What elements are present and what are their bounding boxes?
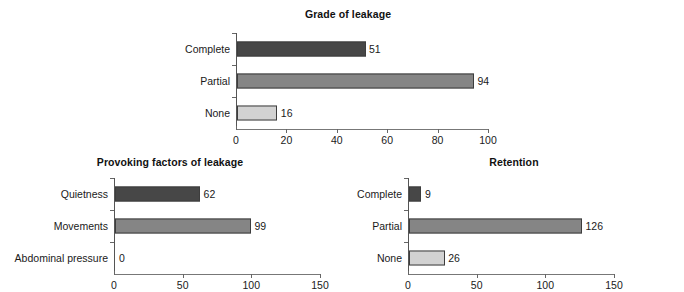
x-tick <box>614 274 615 278</box>
x-axis-line <box>114 274 320 275</box>
x-tick <box>488 129 489 133</box>
bar-value-label: 94 <box>477 75 489 87</box>
chart-title: Retention <box>364 156 664 168</box>
x-tick <box>251 274 252 278</box>
x-tick-label: 150 <box>605 279 623 291</box>
plot-area: 0 50 100 150 Quietness Movements Abdomin… <box>114 178 320 274</box>
y-tick <box>404 178 408 179</box>
x-tick <box>387 129 388 133</box>
plot-area: 0 50 100 150 Complete Partial None 9 126… <box>408 178 614 274</box>
bar <box>409 251 445 266</box>
x-tick <box>320 274 321 278</box>
x-tick-label: 100 <box>537 279 555 291</box>
bar <box>115 187 200 202</box>
bar-value-label: 99 <box>254 220 266 232</box>
y-tick <box>232 97 236 98</box>
bar-value-label: 9 <box>425 188 431 200</box>
chart-title: Provoking factors of leakage <box>10 156 330 168</box>
x-tick-label: 0 <box>233 134 239 146</box>
y-tick <box>404 210 408 211</box>
y-tick <box>404 242 408 243</box>
x-tick-label: 80 <box>432 134 444 146</box>
y-tick <box>232 33 236 34</box>
category-label: Movements <box>54 220 108 232</box>
plot-area: 0 20 40 60 80 100 Complete Partial None … <box>236 33 488 129</box>
x-tick-label: 100 <box>479 134 497 146</box>
x-tick <box>236 126 237 130</box>
x-tick-label: 0 <box>405 279 411 291</box>
x-tick <box>438 129 439 133</box>
bar-value-label: 26 <box>448 252 460 264</box>
category-label: None <box>377 252 402 264</box>
bar-value-label: 0 <box>119 252 125 264</box>
bar-value-label: 51 <box>369 43 381 55</box>
x-tick <box>408 271 409 275</box>
x-tick-label: 60 <box>381 134 393 146</box>
category-label: Partial <box>200 75 230 87</box>
category-label: Quietness <box>61 188 108 200</box>
chart-panel-provoking-factors: Provoking factors of leakage 0 50 100 15… <box>0 156 340 292</box>
bar-value-label: 16 <box>281 107 293 119</box>
x-tick <box>477 274 478 278</box>
category-label: None <box>205 107 230 119</box>
x-tick-label: 50 <box>177 279 189 291</box>
category-label: Complete <box>185 43 230 55</box>
bar <box>409 187 421 202</box>
x-tick-label: 0 <box>111 279 117 291</box>
y-tick <box>110 178 114 179</box>
x-tick-label: 100 <box>243 279 261 291</box>
x-tick-label: 20 <box>281 134 293 146</box>
x-tick <box>286 129 287 133</box>
x-tick <box>545 274 546 278</box>
bar-value-label: 126 <box>586 220 604 232</box>
y-tick <box>110 242 114 243</box>
bar <box>237 74 474 89</box>
x-tick <box>337 129 338 133</box>
chart-panel-grade-of-leakage: Grade of leakage 0 20 40 60 80 100 Compl… <box>168 8 528 143</box>
x-tick-label: 150 <box>311 279 329 291</box>
bar <box>237 42 366 57</box>
bar <box>409 219 582 234</box>
category-label: Complete <box>357 188 402 200</box>
category-label: Abdominal pressure <box>15 252 108 264</box>
x-tick <box>183 274 184 278</box>
bar <box>237 106 277 121</box>
x-axis-line <box>408 274 614 275</box>
x-tick-label: 40 <box>331 134 343 146</box>
x-tick <box>114 271 115 275</box>
bar <box>115 219 251 234</box>
category-label: Partial <box>372 220 402 232</box>
y-tick <box>232 65 236 66</box>
x-axis-line <box>236 129 488 130</box>
y-tick <box>110 210 114 211</box>
x-tick-label: 50 <box>471 279 483 291</box>
bar-value-label: 62 <box>204 188 216 200</box>
chart-panel-retention: Retention 0 50 100 150 Complete Partial … <box>344 156 684 292</box>
chart-title: Grade of leakage <box>198 8 498 20</box>
